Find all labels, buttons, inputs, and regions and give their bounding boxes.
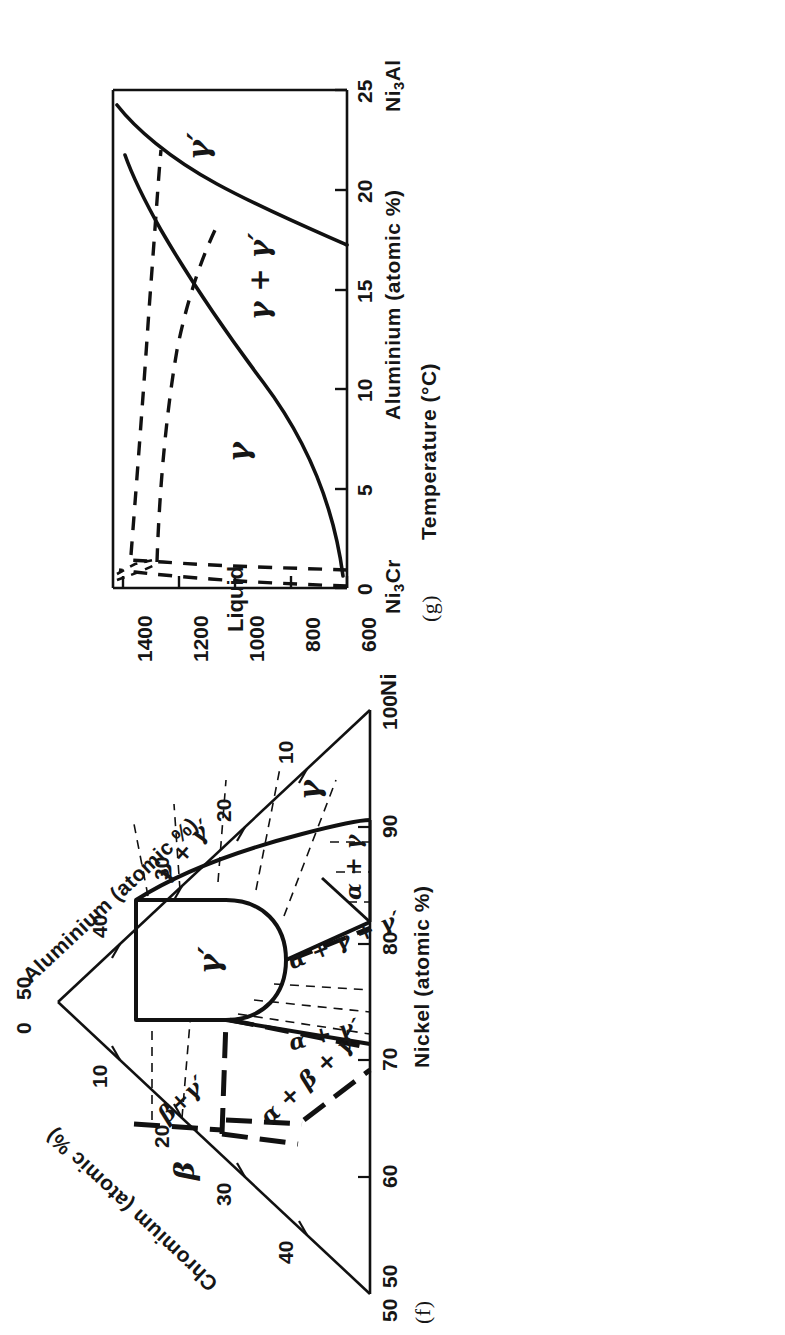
cr-tick-20: 20 bbox=[150, 1125, 174, 1148]
y-tick-800: 800 bbox=[301, 617, 325, 652]
endmember-right-ni: Ni bbox=[381, 90, 404, 112]
nickel-axis-title: Nickel (atomic %) bbox=[410, 886, 434, 1068]
phase-gamma-gamma-prime: γ + γ′ bbox=[243, 233, 276, 320]
apex-label-0: 0 bbox=[12, 1022, 36, 1034]
corner-left-ni-50: 50 bbox=[378, 1265, 402, 1288]
panel-g-plot bbox=[95, 70, 395, 650]
x-tick-5: 5 bbox=[353, 484, 377, 496]
ni-tick-60: 60 bbox=[378, 1165, 402, 1188]
phase-gamma-prime: γ′ bbox=[181, 132, 216, 160]
corner-right-ni-symbol: Ni bbox=[376, 673, 402, 696]
cr-tick-10: 10 bbox=[88, 1065, 112, 1088]
alpha-beta-gamma-prime-left-boundary bbox=[222, 1134, 298, 1144]
phase-gamma-field: γ bbox=[292, 780, 327, 800]
x-tick-20: 20 bbox=[353, 180, 377, 203]
x-tick-10: 10 bbox=[353, 379, 377, 402]
phase-gamma-prime-loop: γ′ bbox=[192, 946, 227, 974]
phase-alpha-gamma: α + γ bbox=[340, 835, 366, 900]
solidus-dashed-upper bbox=[131, 150, 161, 555]
solvus-dashed-lower bbox=[157, 230, 215, 562]
phase-gamma: γ bbox=[221, 442, 256, 462]
x-tick-15: 15 bbox=[353, 280, 377, 303]
y-axis-title: Temperature (°C) bbox=[417, 363, 441, 540]
phase-liquid: Liquid bbox=[223, 566, 249, 632]
panel-f: 0 50 50 50 100 Ni 10 20 30 40 40 30 20 1… bbox=[40, 680, 400, 1320]
endmember-right-al: Al bbox=[381, 59, 404, 81]
endmember-left-cr: Cr bbox=[381, 559, 404, 583]
panel-g: 600 800 1000 1200 1400 0 5 10 15 20 25 N… bbox=[95, 70, 395, 650]
al-tick-10: 10 bbox=[274, 741, 298, 764]
beta-field-lower-boundary bbox=[222, 1020, 226, 1134]
y-tick-600: 600 bbox=[357, 617, 381, 652]
ni-tick-70: 70 bbox=[378, 1048, 402, 1071]
gamma-prime-solvus-curve bbox=[117, 105, 347, 245]
phase-beta: β bbox=[168, 1161, 201, 1180]
ni-tick-90: 90 bbox=[378, 815, 402, 838]
endmember-right-label: Ni3Al bbox=[381, 59, 407, 112]
endmember-right-sub: 3 bbox=[391, 81, 407, 90]
endmember-left-ni: Ni bbox=[381, 592, 404, 614]
beta-right-boundary bbox=[134, 1124, 222, 1130]
y-tick-1200: 1200 bbox=[189, 615, 213, 662]
y-tick-1400: 1400 bbox=[133, 615, 157, 662]
x-axis-title: Aluminium (atomic %) bbox=[381, 189, 405, 420]
cr-tick-40: 40 bbox=[274, 1241, 298, 1264]
x-tick-25: 25 bbox=[353, 80, 377, 103]
endmember-left-label: Ni3Cr bbox=[381, 559, 407, 614]
panel-f-plot bbox=[40, 680, 400, 1320]
panel-f-label: (f) bbox=[410, 1301, 436, 1324]
corner-right-ni-100: 100 bbox=[378, 695, 402, 730]
al-tick-20: 20 bbox=[212, 799, 236, 822]
cr-tick-30: 30 bbox=[212, 1183, 236, 1206]
endmember-left-sub: 3 bbox=[391, 583, 407, 592]
panel-g-label: (g) bbox=[417, 595, 443, 622]
x-ticks bbox=[335, 90, 347, 588]
figure-page: 600 800 1000 1200 1400 0 5 10 15 20 25 N… bbox=[0, 0, 785, 1335]
x-tick-0: 0 bbox=[353, 583, 377, 595]
gamma-solvus-curve bbox=[125, 155, 343, 576]
corner-left-cr-50: 50 bbox=[378, 1299, 402, 1322]
